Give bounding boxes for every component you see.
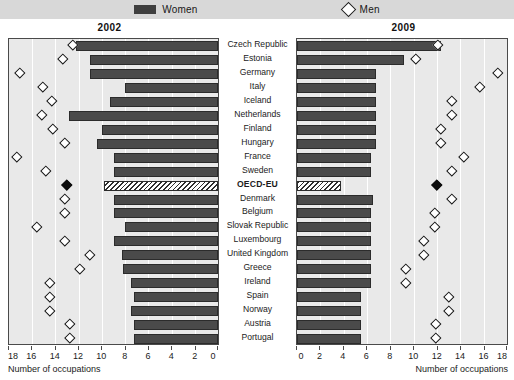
chart-row: [297, 332, 507, 345]
chart-row: [297, 290, 507, 305]
bar-women: [123, 264, 218, 274]
diamond-men: [47, 96, 58, 107]
axis-tick-label: 10: [96, 351, 106, 361]
diamond-oecd-eu: [62, 179, 73, 190]
diamond-men: [492, 68, 503, 79]
axis-tick: [8, 346, 9, 350]
category-label-france: France: [220, 150, 295, 165]
axis-tick-label: 10: [408, 351, 418, 361]
bar-women: [114, 195, 219, 205]
bar-women: [90, 69, 218, 79]
bar-women: [297, 153, 371, 163]
diamond-men: [429, 221, 440, 232]
chart-row: [9, 220, 218, 235]
diamond-men: [59, 235, 70, 246]
chart-row: [297, 137, 507, 152]
category-label-sweden: Sweden: [220, 164, 295, 179]
chart-row: [9, 234, 218, 249]
x-axis-title-2002: Number of occupations: [8, 364, 101, 374]
chart-row: [9, 206, 218, 221]
legend-label-women: Women: [162, 4, 197, 15]
chart-row: [9, 262, 218, 277]
bar-women: [297, 306, 361, 316]
axis-tick-label: 2: [192, 351, 197, 361]
diamond-men: [57, 54, 68, 65]
chart-row: [9, 248, 218, 263]
bar-women: [297, 334, 361, 344]
diamond-men: [411, 54, 422, 65]
bar-women: [297, 250, 371, 260]
category-label-column: Czech RepublicEstoniaGermanyItalyIceland…: [220, 38, 295, 345]
legend-item-women: Women: [134, 4, 197, 15]
diamond-men: [48, 124, 59, 135]
axis-tick-label: 12: [73, 351, 83, 361]
category-label-estonia: Estonia: [220, 52, 295, 67]
bar-women: [114, 153, 219, 163]
diamond-men: [447, 96, 458, 107]
axis-tick: [413, 346, 414, 350]
panel-title-2009: 2009: [296, 22, 511, 33]
category-label-denmark: Denmark: [220, 192, 295, 207]
bar-women: [122, 250, 218, 260]
x-axis-2002: Number of occupations 181614121086420: [8, 346, 219, 374]
axis-tick-label: 6: [145, 351, 150, 361]
chart-row: [9, 109, 218, 124]
chart-row: [9, 67, 218, 82]
axis-tick: [484, 346, 485, 350]
bar-women: [297, 41, 441, 51]
chart-panel-2002: [8, 38, 219, 345]
chart-row: [9, 318, 218, 333]
chart-row: [9, 137, 218, 152]
chart-row: [297, 151, 507, 166]
bar-women: [297, 69, 376, 79]
chart-row: [297, 39, 507, 54]
diamond-men: [447, 110, 458, 121]
chart-row: [9, 179, 218, 194]
axis-tick: [296, 346, 297, 350]
diamond-men: [74, 263, 85, 274]
diamond-men: [44, 291, 55, 302]
axis-tick-label: 4: [169, 351, 174, 361]
chart-row: [9, 95, 218, 110]
chart-row: [297, 53, 507, 68]
chart-row: [297, 109, 507, 124]
axis-tick: [343, 346, 344, 350]
category-label-spain: Spain: [220, 289, 295, 304]
bar-women: [102, 125, 218, 135]
bar-women: [297, 167, 371, 177]
axis-tick-label: 8: [122, 351, 127, 361]
bar-women: [131, 306, 218, 316]
axis-tick-label: 18: [497, 351, 507, 361]
chart-row: [297, 81, 507, 96]
chart-row: [297, 234, 507, 249]
chart-row: [297, 165, 507, 180]
x-axis-title-2009: Number of occupations: [415, 364, 508, 374]
bar-women: [110, 97, 218, 107]
bar-women: [297, 320, 361, 330]
bar-women: [125, 222, 218, 232]
axis-tick: [195, 346, 196, 350]
category-label-ireland: Ireland: [220, 275, 295, 290]
category-label-united-kingdom: United Kingdom: [220, 247, 295, 262]
diamond-oecd-eu: [432, 179, 443, 190]
chart-row: [297, 262, 507, 277]
bar-women: [297, 264, 371, 274]
category-label-oecd-eu: OECD-EU: [220, 178, 295, 193]
axis-tick-label: 16: [26, 351, 36, 361]
category-label-germany: Germany: [220, 66, 295, 81]
bar-oecd-eu: [297, 181, 341, 191]
panel-title-2002: 2002: [0, 22, 219, 33]
diamond-men: [430, 319, 441, 330]
axis-tick: [101, 346, 102, 350]
bar-women: [134, 320, 218, 330]
diamond-men: [430, 333, 441, 344]
chart-row: [297, 123, 507, 138]
bar-women: [297, 278, 371, 288]
bar-women: [69, 111, 218, 121]
diamond-men: [64, 319, 75, 330]
bar-women: [134, 334, 218, 344]
bar-women: [114, 167, 219, 177]
axis-tick-label: 6: [364, 351, 369, 361]
axis-tick-label: 2: [317, 351, 322, 361]
chart-row: [297, 193, 507, 208]
